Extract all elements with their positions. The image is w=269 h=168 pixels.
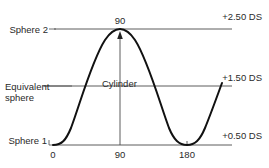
power-label-1-50: +1.50 DS [222,72,262,83]
power-curve [53,29,222,145]
sphere-1-label: Sphere 1 [8,135,47,146]
cylinder-arrow-head-icon [117,31,123,39]
peak-axis-label: 90 [115,15,126,26]
power-cross-diagram: 90 Sphere 2 Equivalent sphere Cylinder S… [0,0,269,168]
power-label-0-50: +0.50 DS [222,130,262,141]
equivalent-sphere-label-line1: Equivalent [5,81,50,92]
x-tick-0: 0 [50,149,55,160]
x-tick-180: 180 [179,149,195,160]
power-label-2-50: +2.50 DS [222,11,262,22]
equivalent-sphere-label-line2: sphere [5,92,34,103]
cylinder-label: Cylinder [102,78,137,89]
sphere-2-label: Sphere 2 [9,24,48,35]
x-tick-90: 90 [115,149,126,160]
